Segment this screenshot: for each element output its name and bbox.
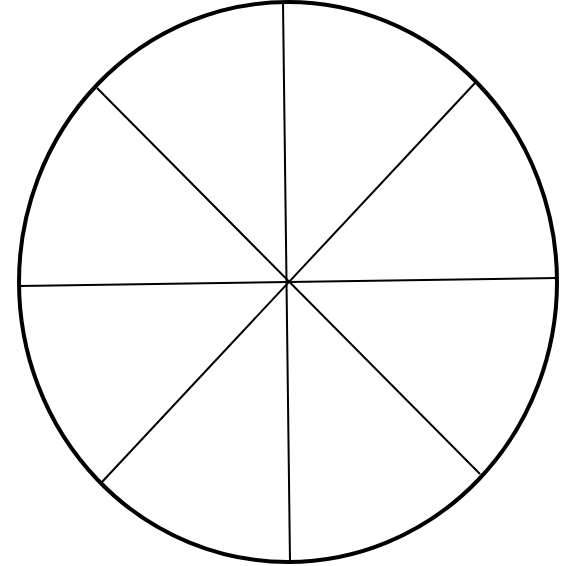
sector-dividers xyxy=(20,3,557,561)
divided-circle-diagram xyxy=(0,0,565,566)
